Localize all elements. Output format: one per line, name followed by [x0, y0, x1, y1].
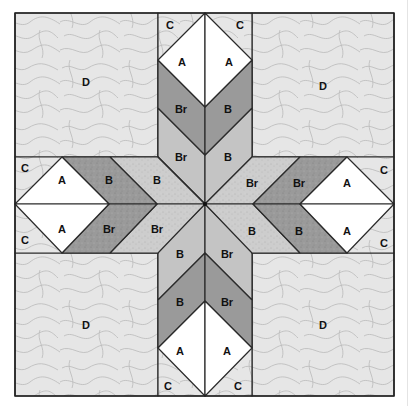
label-bottom-A-left: A: [176, 345, 184, 357]
label-D-bottom-left: D: [82, 319, 90, 331]
center-point: [203, 202, 207, 206]
label-right-dark-bottom: B: [295, 225, 303, 237]
label-right-A-top: A: [343, 177, 351, 189]
label-bottom-C-right: C: [234, 380, 242, 392]
label-right-C-top: C: [380, 164, 388, 176]
label-right-light-top: Br: [246, 177, 259, 189]
label-bottom-light-left: B: [176, 248, 184, 260]
label-right-A-bottom: A: [343, 225, 351, 237]
label-top-A-left: A: [178, 56, 186, 68]
quilt-block-diagram: D D D D C C A A Br B Br B C C A A B Br B…: [0, 0, 409, 406]
label-D-top-right: D: [319, 80, 327, 92]
label-left-C-bottom: C: [21, 234, 29, 246]
label-top-light-left: Br: [175, 151, 188, 163]
label-top-A-right: A: [225, 56, 233, 68]
label-top-light-right: B: [224, 151, 232, 163]
label-left-A-bottom: A: [58, 223, 66, 235]
label-D-top-left: D: [82, 76, 90, 88]
label-bottom-dark-right: Br: [221, 296, 234, 308]
label-top-dark-left: Br: [175, 103, 188, 115]
label-left-dark-bottom: Br: [103, 223, 116, 235]
label-left-light-bottom: Br: [151, 223, 164, 235]
label-bottom-light-right: Br: [221, 248, 234, 260]
label-top-dark-right: B: [224, 103, 232, 115]
label-bottom-C-left: C: [164, 380, 172, 392]
label-D-bottom-right: D: [319, 319, 327, 331]
label-right-light-bottom: B: [248, 225, 256, 237]
quilt-block-svg: D D D D C C A A Br B Br B C C A A B Br B…: [0, 0, 409, 406]
label-left-light-top: B: [153, 174, 161, 186]
label-top-C-left: C: [166, 19, 174, 31]
label-bottom-A-right: A: [223, 345, 231, 357]
label-left-dark-top: B: [105, 174, 113, 186]
label-left-A-top: A: [58, 174, 66, 186]
label-right-C-bottom: C: [380, 237, 388, 249]
page-edge-line: [407, 0, 408, 406]
label-left-C-top: C: [21, 162, 29, 174]
label-top-C-right: C: [236, 19, 244, 31]
label-bottom-dark-left: B: [176, 296, 184, 308]
label-right-dark-top: Br: [293, 177, 306, 189]
